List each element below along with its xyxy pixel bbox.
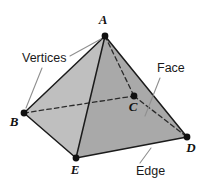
geometry-figure: A B C D E Vertices Face Edge <box>0 0 207 180</box>
vertex-dot-B <box>21 110 28 117</box>
vertex-label-E: E <box>70 162 80 177</box>
annotation-label-face: Face <box>157 61 185 75</box>
vertex-label-A: A <box>98 12 108 27</box>
pyramid-diagram: A B C D E Vertices Face Edge <box>0 0 207 180</box>
vertex-label-B: B <box>9 114 19 129</box>
annotation-label-edge: Edge <box>136 164 165 178</box>
vertex-label-D: D <box>185 140 196 155</box>
vertex-dot-A <box>102 33 109 40</box>
vertex-dot-E <box>73 155 80 162</box>
annotation-label-vertices: Vertices <box>22 51 66 65</box>
vertex-label-C: C <box>129 99 138 114</box>
